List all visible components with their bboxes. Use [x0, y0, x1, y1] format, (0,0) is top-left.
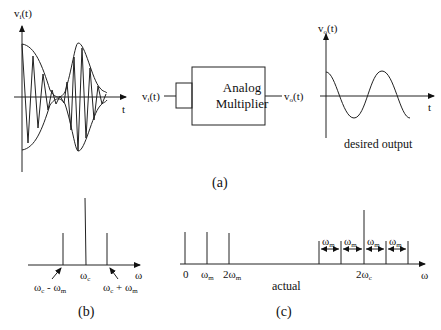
spectrum-b	[28, 198, 140, 279]
tick-2wm: 2ωm	[223, 269, 241, 282]
spacing-label: ωm	[322, 236, 335, 249]
diagram-canvas	[0, 0, 441, 330]
pointer-upper	[110, 268, 118, 279]
caption-a: (a)	[212, 176, 228, 190]
carrier-line	[85, 198, 86, 265]
output-ylabel: vo(t)	[318, 23, 337, 36]
output-signal-plot	[320, 34, 434, 138]
actual-note: actual	[272, 280, 301, 292]
output-xlabel: t	[428, 102, 431, 113]
tick-2wc: 2ωc	[356, 269, 372, 282]
caption-b: (b)	[78, 305, 94, 319]
label-wc-minus-wm: ωc - ωm	[34, 282, 66, 295]
omega-axis-label-b: ω	[135, 270, 142, 281]
multiplier-label-line2: Multiplier	[200, 96, 284, 112]
input-xlabel: t	[122, 104, 125, 115]
block-output-label: vo(t)	[284, 91, 303, 104]
tick-0: 0	[183, 269, 189, 280]
spacing-label: ωm	[344, 236, 357, 249]
output-sine	[326, 71, 410, 118]
multiplier-label: Analog Multiplier	[200, 80, 284, 112]
spacing-label: ωm	[389, 236, 402, 249]
upper-envelope	[22, 43, 107, 97]
multiplier-input-port	[176, 83, 192, 108]
pointer-lower	[52, 268, 61, 279]
label-wc: ωc	[80, 270, 90, 283]
label-wc-plus-wm: ωc + ωm	[103, 282, 138, 295]
spacing-label: ωm	[367, 236, 380, 249]
caption-c: (c)	[276, 305, 292, 319]
tick-wm: ωm	[201, 269, 214, 282]
input-ylabel: vi(t)	[14, 8, 32, 21]
block-input-label: vi(t)	[142, 91, 160, 104]
desired-output-caption: desired output	[344, 138, 412, 150]
multiplier-label-line1: Analog	[200, 80, 284, 96]
omega-axis-label-c: ω	[421, 270, 428, 281]
input-signal-plot	[14, 26, 126, 172]
lower-envelope	[22, 99, 107, 151]
